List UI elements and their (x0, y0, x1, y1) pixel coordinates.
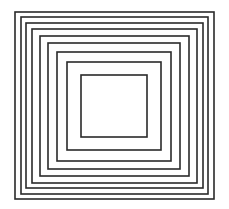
background (0, 0, 229, 209)
nested-squares-diagram (0, 0, 229, 209)
